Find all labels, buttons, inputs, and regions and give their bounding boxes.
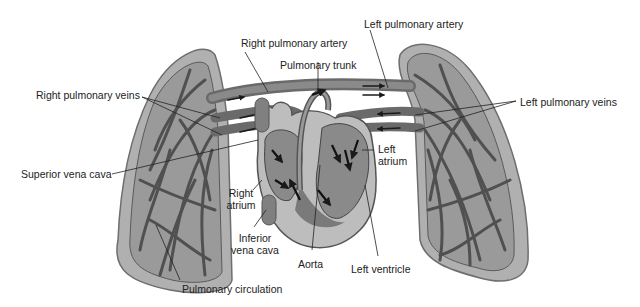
label-pulmonary-trunk: Pulmonary trunk (280, 59, 356, 71)
label-superior-vena-cava: Superior vena cava (21, 168, 111, 180)
label-left-ventricle: Left ventricle (351, 263, 411, 275)
label-right-atrium: Right atrium (224, 187, 258, 211)
label-left-atrium: Left atrium (378, 143, 410, 167)
label-left-pulmonary-veins: Left pulmonary veins (520, 96, 617, 108)
label-inferior-vena-cava: Inferior vena cava (230, 232, 280, 256)
label-left-pulmonary-artery: Left pulmonary artery (364, 18, 463, 30)
label-right-pulmonary-veins: Right pulmonary veins (36, 89, 140, 101)
label-pulmonary-circulation: Pulmonary circulation (182, 283, 282, 295)
left-lung (399, 44, 528, 281)
label-right-pulmonary-artery: Right pulmonary artery (241, 37, 347, 49)
label-aorta: Aorta (298, 258, 323, 270)
right-lung (117, 49, 232, 292)
